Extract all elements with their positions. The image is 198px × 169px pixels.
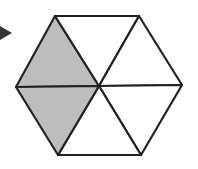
hexagon-fraction-diagram: [0, 0, 198, 169]
